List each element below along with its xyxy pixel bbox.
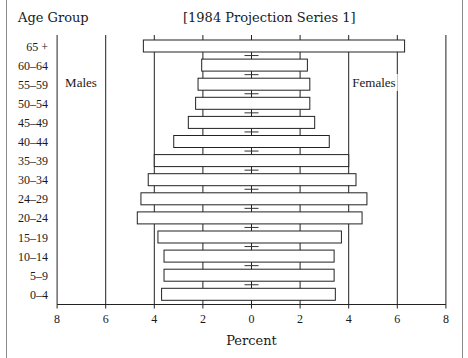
age-group-label: 65 + [26, 40, 48, 54]
x-axis-title: Percent [0, 333, 468, 348]
bar-12 [164, 269, 334, 281]
x-tick-label: 4 [151, 312, 157, 326]
age-group-label: 35–39 [18, 154, 48, 168]
bar-4 [188, 116, 314, 128]
age-group-label: 50–54 [18, 97, 48, 111]
bar-5 [174, 136, 330, 148]
age-group-label: 24–29 [18, 192, 48, 206]
age-group-label: 15–19 [18, 231, 48, 245]
bar-9 [137, 212, 362, 224]
age-group-label: 20–24 [18, 211, 48, 225]
age-group-label: 60–64 [18, 59, 48, 73]
age-group-label: 45–49 [18, 116, 48, 130]
x-tick-label: 8 [54, 312, 60, 326]
bar-13 [162, 288, 336, 300]
x-tick-label: 6 [394, 312, 400, 326]
bar-11 [164, 250, 334, 262]
age-group-label: 55–59 [18, 78, 48, 92]
x-tick-label: 4 [346, 312, 352, 326]
bar-1 [202, 59, 308, 71]
x-tick-label: 0 [249, 312, 255, 326]
x-tick-label: 6 [103, 312, 109, 326]
age-group-label: 5–9 [30, 269, 48, 283]
x-tick-label: 2 [297, 312, 303, 326]
age-group-label: 10–14 [18, 250, 48, 264]
bar-2 [198, 78, 310, 90]
x-tick-label: 8 [443, 312, 449, 326]
age-group-label: 40–44 [18, 135, 48, 149]
bar-7 [148, 174, 356, 186]
age-group-label: 0–4 [30, 288, 48, 302]
bar-6 [154, 155, 348, 167]
age-group-label: 30–34 [18, 173, 48, 187]
females-label: Females [352, 75, 395, 90]
bar-0 [143, 40, 404, 52]
males-label: Males [65, 75, 97, 90]
bar-8 [141, 193, 367, 205]
x-tick-label: 2 [200, 312, 206, 326]
bar-3 [196, 97, 310, 109]
bar-10 [158, 231, 341, 243]
